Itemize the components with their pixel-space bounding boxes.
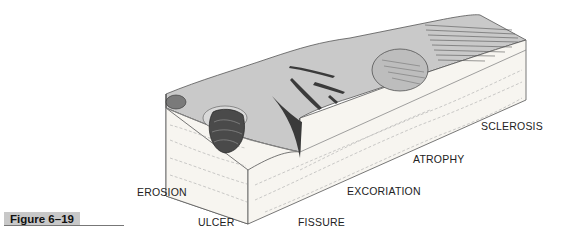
label-fissure: FISSURE (298, 216, 345, 228)
label-excoriation: EXCORIATION (347, 185, 421, 197)
erosion-lesion (166, 95, 186, 109)
label-ulcer: ULCER (198, 216, 235, 228)
figure-label-rule (4, 225, 124, 226)
label-atrophy: ATROPHY (413, 153, 464, 165)
figure-label: Figure 6–19 (10, 212, 74, 226)
atrophy-lesion (372, 49, 428, 91)
label-erosion: EROSION (137, 186, 187, 198)
label-sclerosis: SCLEROSIS (481, 120, 543, 132)
